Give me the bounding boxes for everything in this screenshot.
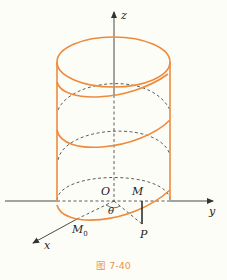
- label-M: M: [132, 186, 143, 197]
- figure-caption: 图 7-40: [0, 258, 227, 272]
- label-M0: M0: [72, 224, 88, 238]
- label-M0-main: M: [72, 223, 83, 236]
- label-M0-sub: 0: [83, 230, 87, 238]
- diagram-canvas: [0, 0, 227, 280]
- helix-curve: [57, 37, 170, 220]
- label-P: P: [140, 229, 147, 240]
- label-y: y: [209, 206, 215, 217]
- helix-cylinder-figure: z y x O M P θ M0 图 7-40: [0, 0, 227, 280]
- label-z: z: [121, 10, 127, 21]
- label-x: x: [44, 240, 50, 251]
- label-theta: θ: [108, 206, 114, 216]
- x-axis: [33, 219, 77, 243]
- label-O: O: [101, 186, 110, 197]
